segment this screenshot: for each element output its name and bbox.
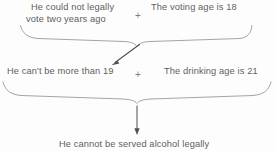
- premise-1-line-1: He could not legally: [31, 2, 114, 14]
- premise-1-line-2: vote two years ago: [26, 14, 106, 26]
- diagram-canvas: He could not legally vote two years ago …: [0, 0, 276, 151]
- operator-plus-row-1: +: [135, 11, 141, 21]
- operator-plus-row-2: +: [135, 70, 141, 80]
- brace-top-icon: [21, 26, 253, 47]
- arrow-vertical-icon: [134, 106, 139, 135]
- arrow-diagonal-icon: [112, 45, 140, 66]
- brace-bottom-icon: [3, 82, 271, 104]
- premise-3-drinking-age: The drinking age is 21: [164, 66, 258, 78]
- intermediate-conclusion-age: He can't be more than 19: [7, 66, 114, 78]
- premise-2-voting-age: The voting age is 18: [151, 2, 237, 14]
- final-conclusion: He cannot be served alcohol legally: [59, 139, 209, 151]
